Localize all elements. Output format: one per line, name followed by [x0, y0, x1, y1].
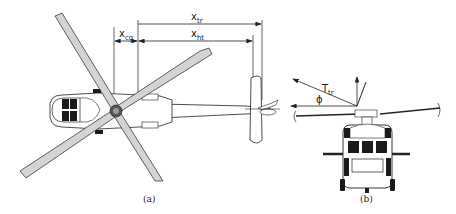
caption-a: (a)	[143, 194, 155, 204]
rotor-mast-tilt	[357, 82, 366, 106]
landing-gear-right	[95, 130, 103, 134]
nose-panel	[352, 159, 383, 172]
tail-wheel	[365, 188, 369, 193]
main-wheel-right	[390, 179, 395, 191]
angle-phi-label: ϕ	[316, 94, 323, 105]
horizontal-stabilizer	[250, 76, 262, 143]
panel-b-front-view: Ttr ϕ (b)	[291, 77, 440, 204]
tail-rotor-hub	[260, 109, 276, 115]
xtr-label: xtr	[191, 11, 203, 25]
xcg-label: xcg	[119, 28, 133, 42]
engine-nacelle-lower	[142, 122, 158, 128]
panel-a-top-view: xtr xht xcg	[20, 11, 280, 204]
rotor-tip-left	[294, 111, 296, 122]
windshield-left	[348, 141, 359, 153]
windshield-center	[362, 141, 373, 153]
side-window-right	[386, 158, 391, 176]
caption-b: (b)	[360, 194, 373, 204]
engine-cowling	[350, 124, 385, 138]
thrust-label: Ttr	[321, 83, 334, 97]
rotor-tip-right	[438, 103, 440, 117]
rotor-head	[355, 110, 377, 117]
rotor-blade-left	[296, 114, 360, 116]
side-window-left	[344, 158, 349, 176]
cockpit-window	[70, 99, 77, 109]
helicopter-diagram: xtr xht xcg	[0, 0, 456, 214]
xht-label: xht	[191, 28, 204, 42]
cockpit-window	[70, 111, 77, 121]
main-wheel-left	[340, 179, 345, 191]
windshield-right	[376, 141, 387, 153]
rotor-blade-right	[380, 108, 440, 114]
engine-intake-right	[385, 128, 391, 138]
engine-intake-left	[344, 128, 350, 138]
cockpit-window	[62, 111, 69, 121]
cockpit-window	[62, 99, 69, 109]
rotor-hub-center	[113, 108, 119, 114]
